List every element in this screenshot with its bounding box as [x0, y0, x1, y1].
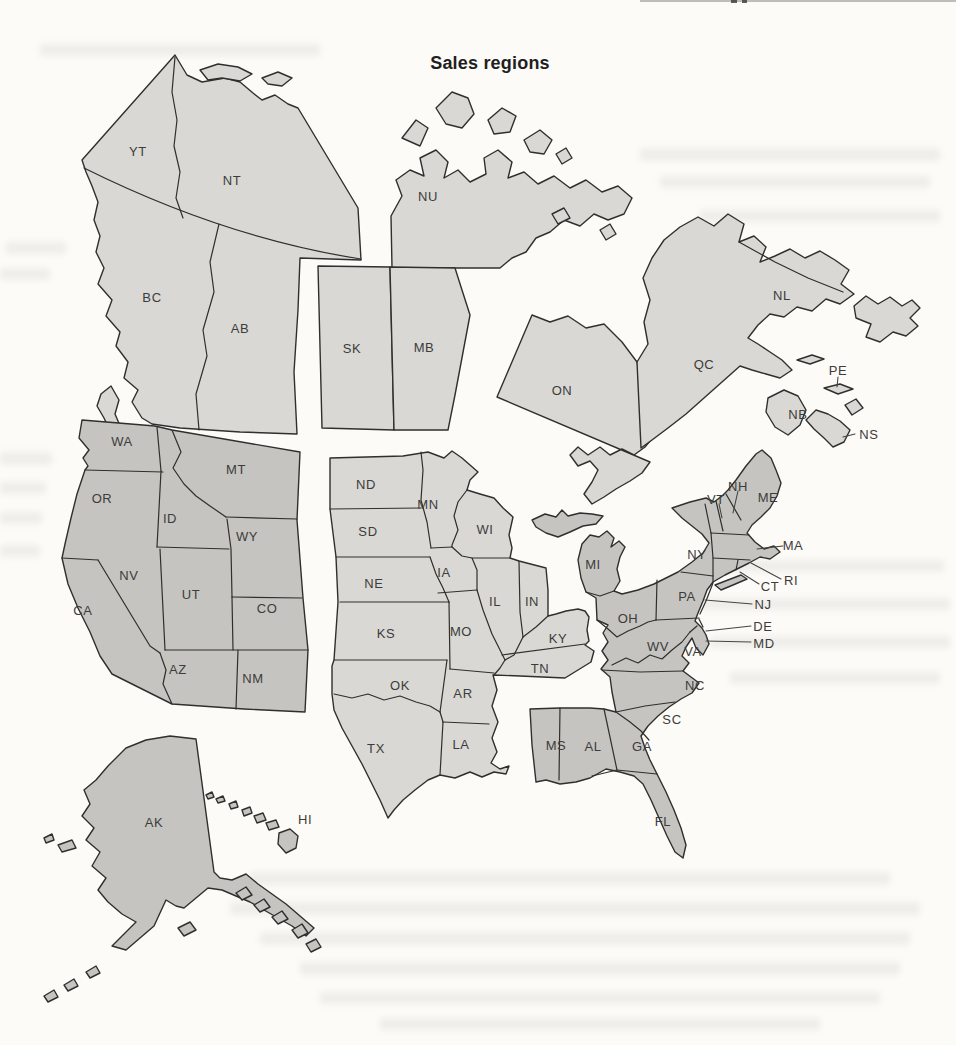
label-ME: ME [758, 490, 779, 505]
label-DE: DE [753, 619, 772, 634]
label-MB: MB [414, 340, 435, 355]
ak-island-shape [44, 990, 58, 1002]
hi-island-shape [242, 807, 252, 816]
ak-island-shape [86, 966, 100, 978]
label-CT: CT [761, 579, 780, 594]
label-MD: MD [753, 636, 774, 651]
hi-island-shape [266, 820, 279, 830]
label-AB: AB [231, 321, 250, 336]
label-WY: WY [236, 529, 258, 544]
label-TX: TX [367, 741, 385, 756]
cape-breton-shape [845, 399, 863, 415]
label-OH: OH [618, 611, 639, 626]
leader-ri [751, 563, 781, 579]
label-NY: NY [687, 547, 706, 562]
leader-nj [705, 600, 752, 604]
canada-ns-shape [806, 410, 850, 447]
hi-island-shape [206, 792, 214, 799]
ak-island-shape [64, 979, 78, 991]
arctic-island-shape [402, 120, 428, 146]
label-MI: MI [585, 557, 601, 572]
region-us-west [44, 420, 321, 1002]
canada-arctic-island-shape [200, 64, 252, 81]
label-MO: MO [450, 624, 472, 639]
label-NS: NS [859, 427, 878, 442]
label-NU: NU [418, 189, 438, 204]
label-PA: PA [678, 589, 696, 604]
canada-yt-nt-bc-ab-shape [82, 55, 361, 434]
hi-island-shape [229, 801, 238, 809]
label-TN: TN [531, 661, 550, 676]
canada-arctic-island-shape [262, 72, 292, 86]
label-CA: CA [73, 603, 92, 618]
label-LA: LA [452, 737, 469, 752]
arctic-island-shape [436, 92, 474, 128]
anticosti-island-shape [797, 355, 824, 364]
label-NE: NE [364, 576, 383, 591]
ak-island-shape [178, 922, 196, 936]
label-BC: BC [142, 290, 161, 305]
hi-island-shape [216, 796, 225, 803]
label-IL: IL [489, 594, 501, 609]
ak-island-shape [58, 840, 76, 852]
label-AZ: AZ [169, 662, 187, 677]
label-NM: NM [242, 671, 263, 686]
label-RI: RI [784, 573, 798, 588]
hi-big-island-shape [278, 829, 298, 853]
label-KY: KY [549, 631, 568, 646]
label-NJ: NJ [754, 597, 771, 612]
label-AK: AK [145, 815, 164, 830]
label-VA: VA [684, 644, 702, 659]
canada-on-shape [497, 315, 655, 504]
ak-island-shape [306, 939, 321, 952]
label-OK: OK [390, 678, 410, 693]
scanned-page: Sales regions [0, 0, 956, 1045]
label-AR: AR [453, 686, 472, 701]
arctic-island-shape [556, 148, 572, 164]
label-GA: GA [632, 739, 652, 754]
leader-de [706, 626, 751, 631]
hudson-bay-island-shape [600, 224, 616, 240]
label-WI: WI [476, 522, 493, 537]
label-VT: VT [707, 492, 725, 507]
leader-md [706, 641, 751, 642]
label-NV: NV [119, 568, 138, 583]
label-MT: MT [226, 462, 246, 477]
label-MA: MA [783, 538, 804, 553]
label-SD: SD [358, 524, 377, 539]
label-NB: NB [788, 407, 807, 422]
hi-island-shape [254, 813, 266, 823]
label-FL: FL [655, 814, 671, 829]
label-IA: IA [437, 565, 450, 580]
label-WV: WV [647, 639, 669, 654]
label-ND: ND [356, 477, 376, 492]
label-NT: NT [223, 173, 242, 188]
newfoundland-island-shape [854, 296, 920, 342]
label-NL: NL [773, 288, 791, 303]
map-title: Sales regions [430, 53, 550, 73]
label-MS: MS [546, 738, 567, 753]
label-NC: NC [685, 678, 705, 693]
label-SK: SK [343, 341, 362, 356]
label-ID: ID [163, 511, 177, 526]
label-MN: MN [417, 497, 438, 512]
label-IN: IN [525, 594, 539, 609]
label-OR: OR [92, 491, 113, 506]
label-AL: AL [584, 739, 601, 754]
arctic-island-shape [488, 108, 516, 134]
label-HI: HI [298, 812, 312, 827]
label-CO: CO [257, 601, 278, 616]
mi-upper-peninsula-shape [532, 510, 603, 537]
sales-regions-map: Sales regions [0, 0, 956, 1045]
canada-nunavut-shape [391, 150, 632, 268]
label-QC: QC [694, 357, 715, 372]
label-SC: SC [662, 712, 681, 727]
label-PE: PE [829, 363, 848, 378]
label-WA: WA [111, 434, 133, 449]
ak-island-shape [44, 834, 54, 843]
arctic-island-shape [524, 130, 552, 154]
label-UT: UT [182, 587, 201, 602]
label-KS: KS [377, 626, 396, 641]
label-ON: ON [552, 383, 573, 398]
canada-pei-shape [824, 384, 853, 394]
